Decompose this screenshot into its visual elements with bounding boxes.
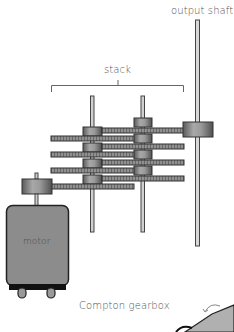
output-gear: [183, 122, 213, 137]
output-shaft-label: output shaft: [171, 5, 233, 16]
motor-pinion: [22, 173, 52, 206]
gearbox-diagram: [0, 0, 234, 332]
partial-illustration: [176, 305, 234, 332]
motor-label: motor: [23, 236, 51, 246]
compound-gears: [51, 118, 184, 189]
stack-bracket: [52, 80, 184, 92]
motor: [7, 206, 69, 299]
caption: Compton gearbox: [79, 300, 170, 311]
stack-label: stack: [104, 64, 131, 75]
